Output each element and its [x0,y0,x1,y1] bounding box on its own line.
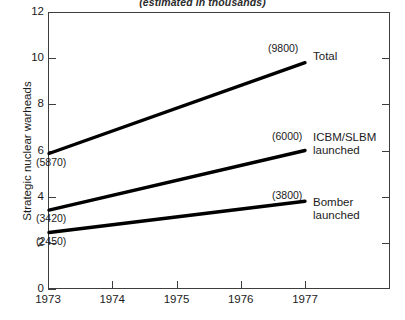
x-tick-label-1974: 1974 [88,293,136,305]
y-tick-10 [48,58,56,59]
chart-title: (estimated in thousands) [0,0,405,8]
y-tick-label-8: 8 [14,97,44,109]
y-tick-4 [48,197,56,198]
x-tick-label-1977: 1977 [281,293,329,305]
point-label-total-end: (9800) [268,42,298,54]
y-tick-label-12: 12 [14,5,44,17]
y-tick-label-10: 10 [14,51,44,63]
y-tick-right-8 [382,104,390,105]
x-tick-1974 [112,281,113,289]
y-tick-right-10 [382,58,390,59]
y-tick-right-2 [382,243,390,244]
series-label-icbm-line1: ICBM/SLBM [313,131,376,143]
series-label-bomber-line2: launched [313,209,360,221]
series-label-total: Total [313,50,337,63]
series-label-icbm-slbm: ICBM/SLBM launched [313,131,376,157]
y-tick-6 [48,151,56,152]
y-tick-right-4 [382,197,390,198]
y-tick-8 [48,104,56,105]
x-tick-1976 [241,281,242,289]
y-tick-right-6 [382,151,390,152]
y-tick-label-6: 6 [14,144,44,156]
chart-screenshot: (estimated in thousands) Strategic nucle… [0,0,405,320]
x-tick-1975 [177,281,178,289]
point-label-bomber-end: (3800) [272,189,302,201]
series-label-icbm-line2: launched [313,144,360,156]
point-label-icbm-end: (6000) [272,130,302,142]
point-label-icbm-start: (3420) [36,212,66,224]
x-tick-1977 [305,281,306,289]
x-tick-label-1975: 1975 [153,293,201,305]
point-label-total-start: (5870) [36,156,66,168]
series-label-total-text: Total [313,50,337,62]
y-tick-0 [48,289,56,290]
x-tick-label-1976: 1976 [217,293,265,305]
y-tick-12 [48,12,56,13]
series-label-bomber: Bomber launched [313,196,360,222]
x-tick-label-1973: 1973 [24,293,72,305]
series-label-bomber-line1: Bomber [313,196,353,208]
y-tick-label-4: 4 [14,190,44,202]
point-label-bomber-start: (2450) [36,235,66,247]
